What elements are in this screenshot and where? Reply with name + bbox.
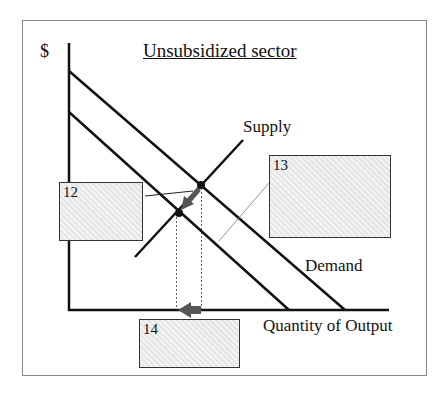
- answer-box-12[interactable]: 12: [59, 182, 143, 241]
- answer-box-12-number: 12: [63, 184, 78, 201]
- answer-box-14[interactable]: 14: [139, 319, 240, 368]
- quantity-decrease-arrow-icon: [178, 302, 201, 318]
- box-13-connector: [219, 183, 269, 241]
- y-axis-label: $: [40, 41, 49, 62]
- diagram-title: Unsubsidized sector: [143, 40, 297, 62]
- demand-label: Demand: [305, 256, 363, 276]
- equilibrium-point-new: [175, 209, 183, 217]
- answer-box-13-number: 13: [273, 157, 288, 174]
- x-axis-label: Quantity of Output: [263, 316, 392, 336]
- answer-box-13[interactable]: 13: [269, 155, 391, 238]
- equilibrium-point-original: [197, 181, 205, 189]
- answer-box-14-number: 14: [143, 321, 158, 338]
- supply-label: Supply: [243, 117, 291, 137]
- box-12-connector: [145, 191, 193, 196]
